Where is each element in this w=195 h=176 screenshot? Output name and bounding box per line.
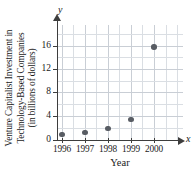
x-axis-letter: x bbox=[186, 133, 190, 144]
x-axis-line bbox=[56, 140, 179, 141]
y-tick-12 bbox=[53, 69, 58, 70]
gridline-vertical bbox=[142, 25, 143, 140]
x-tick-1997 bbox=[85, 138, 86, 143]
x-tick-1996 bbox=[62, 138, 63, 143]
gridline-horizontal bbox=[57, 81, 183, 82]
gridline-vertical bbox=[166, 25, 167, 140]
y-tick-label-16: 16 bbox=[30, 40, 51, 50]
gridline-vertical-2000 bbox=[154, 25, 155, 140]
gridline-vertical bbox=[119, 25, 120, 140]
x-axis-arrow-icon bbox=[178, 137, 185, 145]
x-tick-1999 bbox=[131, 138, 132, 143]
y-tick-label-12: 12 bbox=[30, 63, 51, 73]
y-axis-line bbox=[57, 20, 58, 141]
y-tick-16 bbox=[53, 46, 58, 47]
gridline-horizontal bbox=[57, 34, 183, 35]
y-axis-title-line-2: Technology-Based Companies bbox=[15, 0, 27, 176]
y-axis-arrow-icon bbox=[53, 14, 61, 21]
y-axis-letter: y bbox=[58, 4, 62, 15]
x-axis-title: Year bbox=[57, 157, 183, 168]
gridline-vertical-1998 bbox=[108, 25, 109, 140]
chart-figure: Venture Capitalist Investment in Technol… bbox=[0, 0, 195, 176]
gridline-vertical-1997 bbox=[85, 25, 86, 140]
data-point-1999 bbox=[128, 117, 133, 122]
x-tick-2000 bbox=[154, 138, 155, 143]
gridline-vertical-1999 bbox=[131, 25, 132, 140]
gridline-horizontal bbox=[57, 104, 183, 105]
data-point-1997 bbox=[82, 130, 87, 135]
gridline-vertical bbox=[73, 25, 74, 140]
gridline-horizontal-16 bbox=[57, 46, 183, 47]
x-tick-label-2000: 2000 bbox=[141, 144, 167, 154]
y-tick-4 bbox=[53, 116, 58, 117]
gridline-vertical bbox=[177, 25, 178, 140]
gridline-horizontal bbox=[57, 128, 183, 129]
y-tick-label-8: 8 bbox=[30, 86, 51, 96]
gridline-horizontal-4 bbox=[57, 116, 183, 117]
data-point-1998 bbox=[105, 126, 110, 131]
gridline-horizontal-8 bbox=[57, 92, 183, 93]
gridline-horizontal bbox=[57, 57, 183, 58]
gridline-vertical-1996 bbox=[62, 25, 63, 140]
plot-area bbox=[57, 25, 183, 140]
y-tick-label-4: 4 bbox=[30, 110, 51, 120]
gridline-horizontal-12 bbox=[57, 69, 183, 70]
y-tick-8 bbox=[53, 92, 58, 93]
data-point-2000 bbox=[151, 44, 156, 49]
y-tick-0 bbox=[53, 140, 58, 141]
y-tick-label-0: 0 bbox=[30, 134, 51, 144]
gridline-vertical bbox=[96, 25, 97, 140]
y-axis-title-line-1: Venture Capitalist Investment in bbox=[4, 0, 16, 176]
x-tick-1998 bbox=[108, 138, 109, 143]
data-point-1996 bbox=[59, 132, 64, 137]
